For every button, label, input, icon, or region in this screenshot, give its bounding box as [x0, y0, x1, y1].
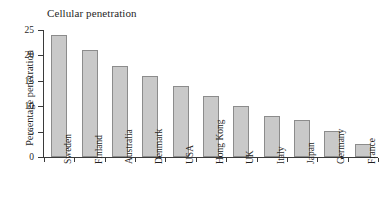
y-tick-mark	[38, 106, 43, 107]
x-label-hong-kong: Hong Kong	[215, 119, 225, 164]
x-label-finland: Finland	[94, 135, 104, 164]
x-tick-mark	[287, 158, 288, 162]
x-label-italy: Italy	[276, 147, 286, 164]
y-tick-label: 20	[4, 51, 34, 61]
x-label-australia: Australia	[124, 129, 134, 164]
chart-title: Cellular penetration	[47, 7, 137, 20]
y-tick-mark	[38, 81, 43, 82]
y-tick-label: 15	[4, 77, 34, 87]
y-tick-mark	[38, 55, 43, 56]
y-tick-label: 25	[4, 26, 34, 36]
x-label-denmark: Denmark	[154, 129, 164, 164]
x-tick-mark	[257, 158, 258, 162]
x-tick-mark	[135, 158, 136, 162]
x-tick-mark	[105, 158, 106, 162]
y-tick-label: 5	[4, 128, 34, 138]
y-tick-label: 10	[4, 102, 34, 112]
x-tick-mark	[44, 158, 45, 162]
y-tick-mark	[38, 132, 43, 133]
x-tick-mark	[378, 158, 379, 162]
x-tick-mark	[317, 158, 318, 162]
x-label-sweden: Sweden	[63, 134, 73, 164]
x-label-japan: Japan	[306, 142, 316, 164]
x-tick-mark	[226, 158, 227, 162]
x-label-usa: USA	[185, 145, 195, 164]
x-label-germany: Germany	[336, 129, 346, 164]
x-tick-mark	[74, 158, 75, 162]
x-label-uk: UK	[245, 150, 255, 164]
x-tick-mark	[165, 158, 166, 162]
x-tick-mark	[196, 158, 197, 162]
y-axis-title: Percentage penetration	[24, 28, 36, 168]
x-tick-mark	[348, 158, 349, 162]
y-tick-mark	[38, 30, 43, 31]
y-tick-label: 0	[4, 153, 34, 163]
cellular-penetration-bar-chart: Cellular penetration Percentage penetrat…	[0, 0, 389, 222]
x-label-france: France	[367, 138, 377, 164]
y-tick-mark	[38, 157, 43, 158]
